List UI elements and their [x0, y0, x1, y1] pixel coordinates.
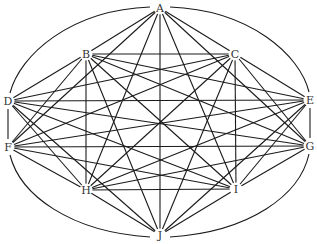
edge-A-I: [160, 8, 236, 189]
node-label: J: [157, 229, 162, 242]
edge-A-B: [86, 8, 160, 54]
node-F: F: [2, 141, 15, 155]
node-label: B: [82, 48, 90, 61]
edge-E-H: [86, 100, 310, 190]
node-label: C: [231, 48, 239, 61]
edge-A-F: [8, 8, 160, 147]
complete-graph-diagram: ABCDEFGHIJ: [0, 0, 317, 244]
node-H: H: [80, 184, 93, 198]
edge-F-H: [8, 147, 86, 190]
edge-E-F: [8, 100, 310, 147]
edge-B-D: [8, 54, 86, 101]
edge-C-E: [235, 54, 310, 100]
node-label: F: [4, 141, 12, 154]
curved-edge-G-J: [170, 154, 309, 237]
edge-C-I: [235, 54, 236, 189]
node-I: I: [230, 183, 243, 197]
edge-A-H: [86, 8, 160, 190]
edge-A-C: [160, 8, 235, 54]
edge-G-I: [236, 146, 310, 189]
curved-edge-F-J: [10, 155, 150, 237]
curved-edge-A-D: [10, 7, 150, 93]
node-label: H: [81, 184, 91, 197]
node-label: E: [306, 94, 314, 107]
node-label: G: [306, 140, 315, 153]
node-label: A: [155, 2, 165, 15]
edge-B-E: [86, 54, 310, 100]
node-J: J: [154, 229, 167, 243]
edge-D-J: [8, 101, 160, 235]
graph-curved-edges: [8, 7, 310, 237]
node-A: A: [154, 2, 167, 16]
node-B: B: [80, 48, 93, 62]
edge-B-J: [86, 54, 160, 235]
edge-F-G: [8, 146, 310, 147]
graph-edges: [8, 8, 310, 235]
node-label: I: [234, 183, 238, 196]
node-G: G: [304, 140, 317, 154]
node-E: E: [304, 94, 317, 108]
edge-D-E: [8, 100, 310, 101]
node-label: D: [4, 95, 13, 108]
edge-C-J: [160, 54, 235, 235]
